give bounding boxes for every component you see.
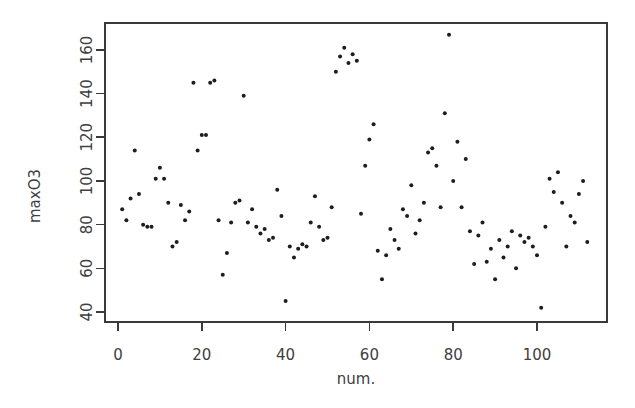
y-tick-label: 80 <box>78 215 96 234</box>
data-point <box>187 210 191 214</box>
data-point <box>384 253 388 257</box>
data-point <box>305 244 309 248</box>
y-tick-label: 160 <box>78 36 96 65</box>
data-point <box>208 81 212 85</box>
data-point <box>129 196 133 200</box>
plot-canvas: 406080100120140160 020406080100 maxO3 nu… <box>0 0 635 408</box>
data-point <box>250 207 254 211</box>
data-point <box>166 201 170 205</box>
data-point <box>317 225 321 229</box>
data-point <box>191 81 195 85</box>
data-point <box>363 164 367 168</box>
data-point <box>548 177 552 181</box>
data-point <box>124 218 128 222</box>
data-point <box>485 260 489 264</box>
data-point <box>464 157 468 161</box>
y-axis-title: maxO3 <box>26 169 44 223</box>
data-point <box>141 223 145 227</box>
data-point <box>560 201 564 205</box>
data-point <box>179 203 183 207</box>
data-point <box>170 244 174 248</box>
x-axis-title: num. <box>337 370 375 388</box>
data-point <box>212 79 216 83</box>
data-point <box>577 192 581 196</box>
data-point <box>300 242 304 246</box>
x-tick-label: 20 <box>192 346 211 364</box>
data-point <box>443 111 447 115</box>
data-point <box>338 54 342 58</box>
data-point <box>556 170 560 174</box>
x-tick-label: 100 <box>523 346 552 364</box>
data-point <box>367 137 371 141</box>
x-tick-label: 0 <box>113 346 123 364</box>
data-point <box>334 70 338 74</box>
data-point <box>376 249 380 253</box>
data-point <box>518 234 522 238</box>
data-point <box>342 46 346 50</box>
data-point <box>434 164 438 168</box>
data-point <box>573 220 577 224</box>
data-point <box>137 192 141 196</box>
data-point <box>271 236 275 240</box>
data-point <box>359 212 363 216</box>
data-point <box>447 33 451 37</box>
data-point <box>263 227 267 231</box>
y-tick-label: 140 <box>78 79 96 108</box>
data-point <box>569 214 573 218</box>
data-point <box>355 59 359 63</box>
y-tick-label: 120 <box>78 123 96 152</box>
data-point <box>468 229 472 233</box>
data-point <box>326 236 330 240</box>
data-point <box>581 179 585 183</box>
data-point <box>292 255 296 259</box>
data-point <box>413 231 417 235</box>
data-point <box>522 240 526 244</box>
y-tick-label: 40 <box>78 302 96 321</box>
data-point <box>254 225 258 229</box>
data-point <box>158 166 162 170</box>
data-point <box>535 253 539 257</box>
data-point <box>238 199 242 203</box>
data-point <box>388 227 392 231</box>
data-point <box>133 148 137 152</box>
data-point <box>225 251 229 255</box>
data-point <box>401 207 405 211</box>
y-tick-label: 100 <box>78 167 96 196</box>
data-point <box>242 94 246 98</box>
data-point <box>380 277 384 281</box>
data-point <box>472 262 476 266</box>
data-point <box>309 220 313 224</box>
data-point <box>527 236 531 240</box>
data-point <box>162 177 166 181</box>
data-point <box>409 183 413 187</box>
data-point <box>422 201 426 205</box>
data-point <box>493 277 497 281</box>
data-point <box>150 225 154 229</box>
scatter-plot-figure: 406080100120140160 020406080100 maxO3 nu… <box>0 0 635 408</box>
data-point <box>489 247 493 251</box>
data-point <box>346 61 350 65</box>
data-point <box>497 238 501 242</box>
data-point <box>321 238 325 242</box>
data-point <box>426 151 430 155</box>
data-point <box>183 218 187 222</box>
data-point <box>397 247 401 251</box>
data-point <box>481 220 485 224</box>
data-point <box>372 122 376 126</box>
data-point <box>196 148 200 152</box>
data-point <box>284 299 288 303</box>
x-tick-label: 80 <box>444 346 463 364</box>
data-point <box>455 140 459 144</box>
data-point <box>246 220 250 224</box>
data-point <box>439 205 443 209</box>
data-point <box>258 231 262 235</box>
data-point <box>330 205 334 209</box>
data-point <box>145 225 149 229</box>
data-point <box>543 225 547 229</box>
data-point <box>221 273 225 277</box>
data-point <box>501 255 505 259</box>
data-point <box>460 205 464 209</box>
data-point <box>313 194 317 198</box>
data-point <box>476 234 480 238</box>
data-point <box>430 146 434 150</box>
